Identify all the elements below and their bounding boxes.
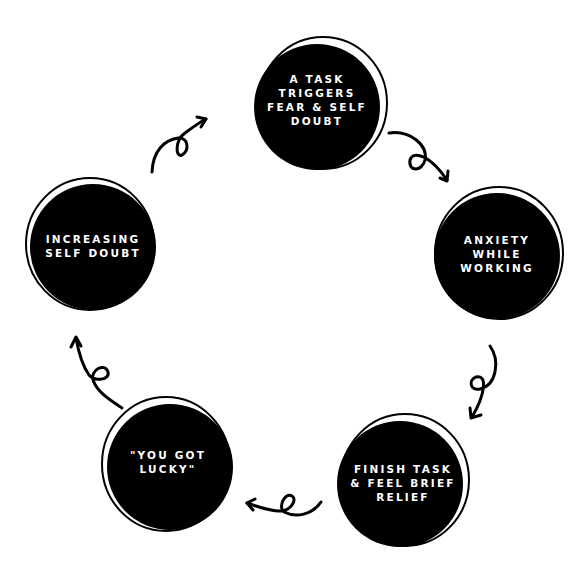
loop-arrow-icon [470,346,496,418]
loop-arrow-icon [71,337,122,408]
loop-arrow-icon [247,495,321,515]
arrows-layer [0,0,588,585]
loop-arrow-icon [152,117,206,172]
loop-arrow-icon [389,133,448,181]
